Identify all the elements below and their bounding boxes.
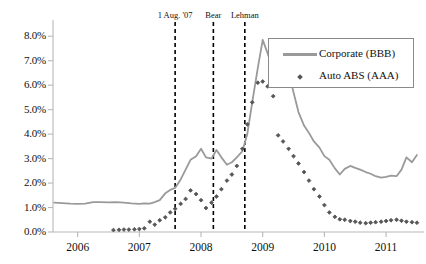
x-tick-label: 2008 xyxy=(171,241,231,253)
data-point xyxy=(142,226,146,230)
y-tick-label: 2.0% xyxy=(2,176,46,188)
credit-spread-chart: 0.0%1.0%2.0%3.0%4.0%5.0%6.0%7.0%8.0% 200… xyxy=(0,0,426,264)
data-point xyxy=(215,195,219,199)
data-point xyxy=(395,218,399,222)
data-point xyxy=(327,211,331,215)
data-point xyxy=(158,218,162,222)
data-point xyxy=(210,201,214,205)
data-point xyxy=(353,220,357,224)
data-point xyxy=(204,206,208,210)
data-point xyxy=(168,211,172,215)
data-point xyxy=(230,173,234,177)
data-point xyxy=(133,227,137,231)
data-point xyxy=(127,228,131,232)
data-point xyxy=(384,219,388,223)
data-point xyxy=(261,80,265,84)
x-tick-label: 2010 xyxy=(294,241,354,253)
data-point xyxy=(369,221,373,225)
data-point xyxy=(281,140,285,144)
data-point xyxy=(307,179,311,183)
legend-label-auto-abs: Auto ABS (AAA) xyxy=(319,69,398,81)
data-point xyxy=(297,162,301,166)
data-point xyxy=(219,187,223,191)
data-point xyxy=(137,227,141,231)
data-point xyxy=(374,220,378,224)
data-point xyxy=(163,215,167,219)
data-point xyxy=(338,217,342,221)
y-tick-label: 1.0% xyxy=(2,201,46,213)
x-tick-label: 2007 xyxy=(109,241,169,253)
y-tick-label: 3.0% xyxy=(2,152,46,164)
x-tick-label: 2009 xyxy=(233,241,293,253)
chart-legend: Corporate (BBB) Auto ABS (AAA) xyxy=(268,38,414,88)
legend-marker-swatch-auto-abs xyxy=(297,74,303,80)
data-point xyxy=(287,147,291,151)
data-point xyxy=(318,195,322,199)
y-tick-label: 5.0% xyxy=(2,103,46,115)
data-point xyxy=(250,100,254,104)
data-point xyxy=(405,220,409,224)
data-point xyxy=(194,192,198,196)
series-markers-auto-abs xyxy=(112,80,419,232)
data-point xyxy=(225,179,229,183)
y-tick-label: 4.0% xyxy=(2,127,46,139)
x-tick-label: 2011 xyxy=(356,241,416,253)
data-point xyxy=(415,221,419,225)
data-point xyxy=(199,198,203,202)
data-point xyxy=(400,219,404,223)
data-point xyxy=(343,218,347,222)
y-tick-label: 6.0% xyxy=(2,78,46,90)
data-point xyxy=(302,170,306,174)
data-point xyxy=(122,228,126,232)
event-label: Lehman xyxy=(205,10,285,20)
data-point xyxy=(153,223,157,227)
data-point xyxy=(112,228,116,232)
data-point xyxy=(173,207,177,211)
data-point xyxy=(179,202,183,206)
data-point xyxy=(322,203,326,207)
data-point xyxy=(358,221,362,225)
data-point xyxy=(333,215,337,219)
legend-item-auto-abs: Auto ABS (AAA) xyxy=(269,64,415,89)
legend-label-corporate: Corporate (BBB) xyxy=(319,47,395,59)
data-point xyxy=(292,154,296,158)
legend-line-swatch-corporate xyxy=(283,53,317,56)
data-point xyxy=(189,189,193,193)
data-point xyxy=(184,197,188,201)
data-point xyxy=(389,218,393,222)
data-point xyxy=(312,187,316,191)
data-point xyxy=(271,94,275,98)
data-point xyxy=(379,220,383,224)
data-point xyxy=(117,228,121,232)
data-point xyxy=(410,220,414,224)
y-tick-label: 0.0% xyxy=(2,225,46,237)
data-point xyxy=(348,219,352,223)
y-tick-label: 8.0% xyxy=(2,29,46,41)
x-tick-label: 2006 xyxy=(48,241,108,253)
data-point xyxy=(235,164,239,168)
data-point xyxy=(364,221,368,225)
y-tick-label: 7.0% xyxy=(2,54,46,66)
data-point xyxy=(148,220,152,224)
data-point xyxy=(276,133,280,137)
